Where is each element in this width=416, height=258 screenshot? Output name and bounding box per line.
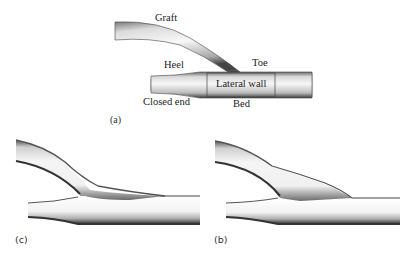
toe-label: Toe	[252, 58, 268, 69]
panel-b-label: (b)	[214, 235, 227, 245]
panel-b-drawing	[215, 141, 400, 224]
graft-label: Graft	[155, 13, 177, 24]
bed-label: Bed	[233, 99, 250, 110]
closed-end-label: Closed end	[143, 97, 190, 108]
panel-a-label: (a)	[110, 115, 121, 125]
anastomosis-figure	[0, 0, 416, 258]
panel-c-label: (c)	[15, 235, 28, 245]
heel-label: Heel	[164, 60, 184, 71]
lateral-wall-label: Lateral wall	[216, 79, 266, 90]
panel-a-drawing	[115, 22, 312, 98]
panel-c-drawing	[16, 140, 200, 224]
